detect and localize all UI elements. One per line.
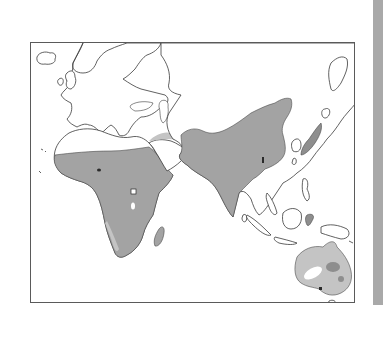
page-edge-shadow <box>373 0 383 305</box>
map-frame <box>30 42 355 303</box>
ireland <box>58 78 64 85</box>
europe-landmass <box>61 43 168 136</box>
lake-chad-marker <box>97 169 101 172</box>
korea <box>292 139 302 152</box>
sri-lanka <box>242 214 247 221</box>
solomon-islands <box>349 241 355 249</box>
borneo <box>282 209 301 230</box>
australia-marker <box>319 287 322 290</box>
canary-islands <box>41 149 46 152</box>
range-australia <box>295 242 352 295</box>
australia-dark-patch <box>326 262 340 272</box>
iceland <box>37 52 56 64</box>
china-coast-marker <box>262 157 264 163</box>
taiwan <box>292 158 296 164</box>
great-britain <box>66 71 76 89</box>
cape-verde <box>39 171 41 173</box>
new-guinea <box>321 225 349 239</box>
australia-dark-patch-2 <box>338 276 344 282</box>
tasmania <box>329 300 336 303</box>
world-map <box>31 43 355 303</box>
philippines <box>302 179 309 201</box>
sulawesi <box>306 214 314 225</box>
range-madagascar <box>154 227 164 246</box>
marker-box <box>131 189 136 194</box>
java <box>274 237 297 245</box>
lake-victoria <box>131 203 135 210</box>
sumatra <box>246 215 271 235</box>
